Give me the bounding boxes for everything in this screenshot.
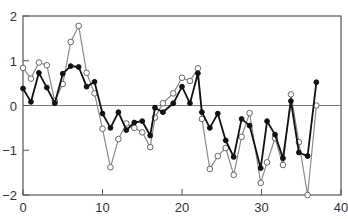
filled-circle-marker bbox=[44, 85, 49, 90]
open-circle-marker bbox=[108, 164, 114, 170]
open-circle-marker bbox=[44, 62, 50, 68]
filled-circle-marker bbox=[148, 133, 153, 138]
filled-circle-marker bbox=[314, 80, 319, 85]
filled-circle-marker bbox=[247, 123, 252, 128]
open-series bbox=[20, 23, 319, 198]
filled-circle-marker bbox=[207, 125, 212, 130]
open-circle-marker bbox=[36, 60, 42, 66]
data-series bbox=[20, 23, 319, 198]
filled-circle-marker bbox=[92, 79, 97, 84]
open-circle-marker bbox=[139, 130, 145, 136]
x-tick-label: 0 bbox=[19, 200, 26, 215]
filled-circle-marker bbox=[29, 100, 34, 105]
filled-circle-marker bbox=[188, 101, 193, 106]
filled-circle-marker bbox=[265, 119, 270, 124]
filled-circle-marker bbox=[231, 155, 236, 160]
line-chart: −2−1012 010203040 bbox=[0, 0, 348, 219]
open-circle-marker bbox=[170, 91, 176, 97]
filled-circle-marker bbox=[124, 128, 129, 133]
x-tick-label: 30 bbox=[254, 200, 268, 215]
filled-circle-marker bbox=[223, 138, 228, 143]
open-circle-marker bbox=[132, 125, 138, 131]
y-tick-label: 2 bbox=[10, 9, 17, 24]
filled-circle-marker bbox=[273, 132, 278, 137]
y-tick-label: −2 bbox=[2, 188, 17, 203]
series-line bbox=[23, 26, 316, 195]
open-circle-marker bbox=[264, 160, 270, 166]
filled-circle-marker bbox=[196, 71, 201, 76]
filled-circle-marker bbox=[296, 150, 301, 155]
open-circle-marker bbox=[68, 39, 74, 45]
open-circle-marker bbox=[20, 65, 26, 71]
open-circle-marker bbox=[116, 136, 122, 142]
filled-circle-marker bbox=[180, 84, 185, 89]
open-circle-marker bbox=[231, 172, 237, 178]
open-circle-marker bbox=[305, 192, 311, 198]
x-tick-label: 10 bbox=[95, 200, 109, 215]
y-tick-label: 1 bbox=[10, 54, 17, 69]
filled-circle-marker bbox=[140, 119, 145, 124]
open-circle-marker bbox=[84, 70, 90, 76]
series-line bbox=[23, 66, 316, 168]
filled-series bbox=[21, 64, 319, 171]
open-circle-marker bbox=[100, 126, 106, 132]
filled-circle-marker bbox=[21, 86, 26, 91]
filled-circle-marker bbox=[76, 65, 81, 70]
y-tick-label: 0 bbox=[10, 99, 17, 114]
open-circle-marker bbox=[258, 180, 264, 186]
filled-circle-marker bbox=[68, 64, 73, 69]
open-circle-marker bbox=[280, 162, 286, 168]
open-circle-marker bbox=[239, 134, 245, 140]
filled-circle-marker bbox=[305, 154, 310, 159]
open-circle-marker bbox=[288, 92, 294, 98]
filled-circle-marker bbox=[100, 111, 105, 116]
filled-circle-marker bbox=[52, 101, 57, 106]
open-circle-marker bbox=[215, 153, 221, 159]
filled-circle-marker bbox=[116, 110, 121, 115]
open-circle-marker bbox=[195, 66, 201, 72]
x-axis-ticks: 010203040 bbox=[19, 189, 348, 215]
y-tick-label: −1 bbox=[2, 143, 17, 158]
filled-circle-marker bbox=[132, 120, 137, 125]
filled-circle-marker bbox=[289, 99, 294, 104]
filled-circle-marker bbox=[171, 101, 176, 106]
open-circle-marker bbox=[147, 144, 153, 150]
open-circle-marker bbox=[187, 78, 193, 84]
filled-circle-marker bbox=[37, 70, 42, 75]
x-tick-label: 40 bbox=[334, 200, 348, 215]
y-axis-ticks: −2−1012 bbox=[2, 9, 29, 203]
open-circle-marker bbox=[179, 75, 185, 81]
filled-circle-marker bbox=[199, 110, 204, 115]
filled-circle-marker bbox=[161, 110, 166, 115]
filled-circle-marker bbox=[215, 111, 220, 116]
filled-circle-marker bbox=[258, 166, 263, 171]
filled-circle-marker bbox=[239, 117, 244, 122]
open-circle-marker bbox=[160, 100, 166, 106]
open-circle-marker bbox=[76, 23, 82, 29]
open-circle-marker bbox=[247, 110, 253, 116]
x-tick-label: 20 bbox=[175, 200, 189, 215]
open-circle-marker bbox=[28, 76, 34, 82]
filled-circle-marker bbox=[153, 105, 158, 110]
filled-circle-marker bbox=[108, 125, 113, 130]
filled-circle-marker bbox=[60, 71, 65, 76]
filled-circle-marker bbox=[281, 156, 286, 161]
open-circle-marker bbox=[207, 166, 213, 172]
filled-circle-marker bbox=[84, 84, 89, 89]
